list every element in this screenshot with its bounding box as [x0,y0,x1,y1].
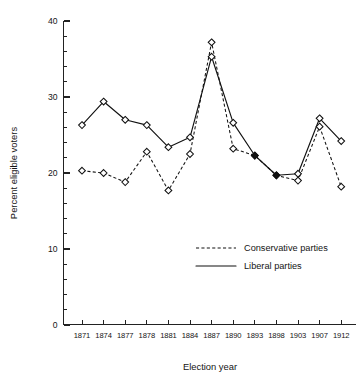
y-tick-label: 30 [48,92,58,102]
x-tick-label: 1871 [74,331,91,340]
x-tick-label: 1907 [311,331,328,340]
data-point-liberal [295,170,302,177]
x-axis: 1871187418771878188118841887189018931898… [64,320,357,340]
legend-label-liberal: Liberal parties [244,261,302,271]
data-series-layer [79,39,345,194]
line-chart: 010203040 187118741877187818811884188718… [0,0,364,378]
series-line-liberal [82,57,341,176]
x-tick-label: 1877 [117,331,134,340]
y-axis: 010203040 [48,16,70,330]
x-tick-label: 1903 [290,331,307,340]
data-point-conservative [143,148,150,155]
x-axis-title: Election year [183,361,237,372]
x-tick-label: 1912 [333,331,350,340]
y-tick-label: 40 [48,16,58,26]
data-point-conservative [122,179,129,186]
y-axis-title: Percent eligible voters [8,127,19,220]
y-axis-tick-labels: 010203040 [48,16,58,330]
x-tick-label: 1881 [160,331,177,340]
y-tick-label: 10 [48,244,58,254]
x-tick-label: 1898 [268,331,285,340]
data-point-conservative [165,187,172,194]
data-point-conservative [338,183,345,190]
data-point-conservative [230,145,237,152]
x-tick-label: 1893 [247,331,264,340]
x-tick-label: 1878 [139,331,156,340]
legend-label-conservative: Conservative parties [244,243,328,253]
y-tick-label: 0 [53,320,58,330]
data-point-conservative [295,177,302,184]
data-point-conservative [187,151,194,158]
data-point-conservative [208,39,215,46]
x-tick-label: 1884 [182,331,199,340]
data-point-conservative [79,167,86,174]
x-tick-label: 1874 [95,331,112,340]
y-tick-label: 20 [48,168,58,178]
data-point-conservative [100,170,107,177]
x-tick-label: 1890 [225,331,242,340]
chart-legend: Conservative partiesLiberal parties [196,243,328,271]
chart-container: 010203040 187118741877187818811884188718… [0,0,364,378]
x-tick-label: 1887 [203,331,220,340]
x-axis-tick-labels: 1871187418771878188118841887189018931898… [74,331,350,340]
data-point-liberal [230,119,237,126]
